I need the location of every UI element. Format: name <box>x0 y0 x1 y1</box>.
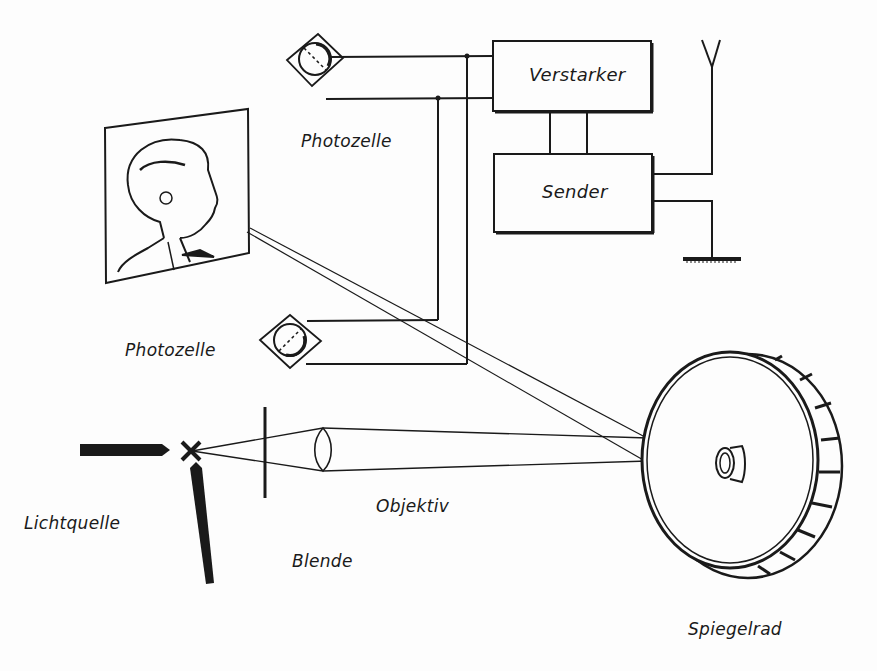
amplifier-label: Verstarker <box>529 64 626 85</box>
mirror-wheel-label: Spiegelrad <box>688 619 782 639</box>
objective-label: Objektiv <box>376 496 449 516</box>
wire-bottom-upper <box>307 320 438 321</box>
photocell-top-icon <box>287 34 343 86</box>
photocell-top-label: Photozelle <box>301 131 392 151</box>
transmitter-label: Sender <box>542 181 608 202</box>
lens-icon <box>315 428 332 471</box>
photocell-bottom-label: Photozelle <box>125 340 216 360</box>
aperture-label: Blende <box>292 551 353 571</box>
light-source-label: Lichtquelle <box>24 513 120 533</box>
antenna-icon <box>653 40 720 174</box>
ground-icon <box>653 201 741 262</box>
diagram-drawing <box>0 0 877 671</box>
beam-lower <box>247 232 645 461</box>
mirror-wheel-icon <box>642 352 842 578</box>
beam-upper <box>250 228 645 437</box>
diagram-canvas: Verstarker Sender Photozelle Photozelle … <box>0 0 877 671</box>
picture-panel <box>105 109 249 283</box>
photocell-bottom-icon <box>260 315 321 368</box>
